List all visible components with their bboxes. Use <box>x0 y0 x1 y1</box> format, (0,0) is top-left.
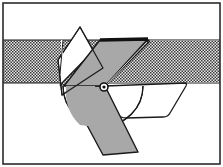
blade-top-thick-edge <box>100 39 148 40</box>
figure-container <box>0 0 223 167</box>
mechanism-diagram-svg <box>0 0 223 167</box>
pivot-point-inner <box>102 85 105 88</box>
